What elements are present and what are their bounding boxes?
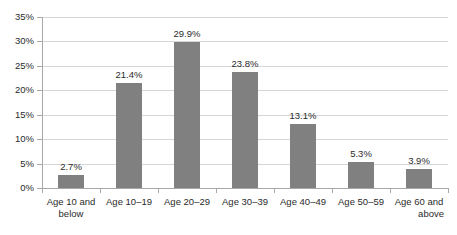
x-axis-category-label: Age 30–39	[216, 196, 274, 208]
y-axis-tick-label: 30%	[0, 36, 34, 46]
category-label-line: below	[42, 208, 100, 220]
y-axis-tick-label: 10%	[0, 134, 34, 144]
bar-value-label: 23.8%	[215, 59, 275, 69]
category-label-line: Age 50–59	[338, 196, 384, 207]
bar-value-label: 21.4%	[99, 70, 159, 80]
bar	[232, 72, 258, 188]
x-axis-tick	[158, 188, 159, 193]
bar-value-label: 3.9%	[389, 156, 449, 166]
category-label-line: Age 10–19	[106, 196, 152, 207]
bar-value-label: 29.9%	[157, 29, 217, 39]
gridline	[42, 41, 448, 42]
x-axis-tick	[332, 188, 333, 193]
x-axis-category-label: Age 50–59	[332, 196, 390, 208]
x-axis-line	[42, 188, 448, 189]
x-axis-category-label: Age 60 andabove	[390, 196, 448, 220]
category-label-line: Age 20–29	[164, 196, 210, 207]
x-axis-tick	[216, 188, 217, 193]
category-label-line: Age 60 and	[395, 196, 444, 207]
category-label-line: above	[390, 208, 448, 220]
x-axis-category-label: Age 40–49	[274, 196, 332, 208]
bar	[58, 175, 84, 188]
y-axis-tick-label: 25%	[0, 61, 34, 71]
bar-value-label: 2.7%	[41, 162, 101, 172]
x-axis-tick	[274, 188, 275, 193]
x-axis-tick	[100, 188, 101, 193]
bar	[348, 162, 374, 188]
plot-area	[42, 17, 448, 188]
y-axis-tick-label: 35%	[0, 12, 34, 22]
gridline	[42, 17, 448, 18]
y-axis-tick-label: 15%	[0, 110, 34, 120]
category-label-line: Age 10 and	[47, 196, 96, 207]
y-axis-tick-label: 20%	[0, 85, 34, 95]
category-label-line: Age 30–39	[222, 196, 268, 207]
x-axis-category-label: Age 10 andbelow	[42, 196, 100, 220]
x-axis-tick	[42, 188, 43, 193]
x-axis-category-label: Age 10–19	[100, 196, 158, 208]
y-axis-tick-label: 5%	[0, 159, 34, 169]
y-axis-tick-label: 0%	[0, 183, 34, 193]
category-label-line: Age 40–49	[280, 196, 326, 207]
x-axis-category-label: Age 20–29	[158, 196, 216, 208]
bar-chart: 0%5%10%15%20%25%30%35% 2.7%21.4%29.9%23.…	[0, 0, 457, 235]
bar-value-label: 5.3%	[331, 149, 391, 159]
bar	[116, 83, 142, 188]
bar-value-label: 13.1%	[273, 111, 333, 121]
bar	[290, 124, 316, 188]
bar	[406, 169, 432, 188]
x-axis-tick	[390, 188, 391, 193]
x-axis-tick	[448, 188, 449, 193]
bar	[174, 42, 200, 188]
